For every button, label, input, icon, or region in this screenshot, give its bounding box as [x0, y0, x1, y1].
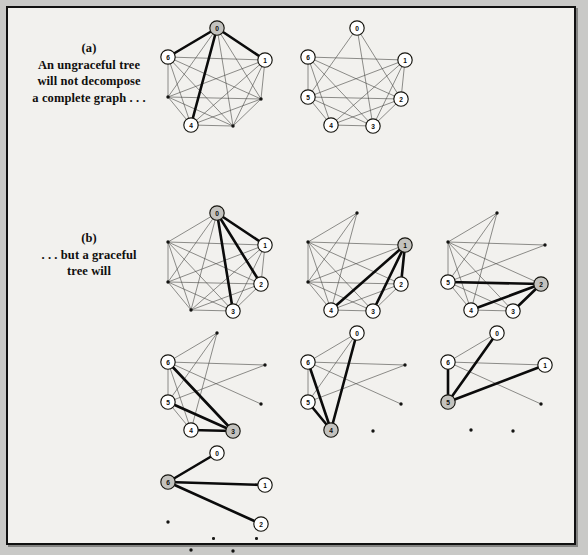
graph-node-dot: [469, 428, 472, 431]
graph-edge: [168, 365, 265, 402]
graph-edge: [168, 242, 191, 310]
caption-b-label: (b): [14, 230, 164, 247]
graph-node-label: 5: [446, 279, 450, 286]
graph-node-label: 1: [263, 482, 267, 489]
graph-node-label: 1: [263, 242, 267, 249]
graph-node-dot: [399, 402, 402, 405]
graph-node-label: 6: [306, 359, 310, 366]
graph-edge: [308, 242, 331, 310]
k7-graceful-step-3: 3456: [160, 325, 285, 450]
graph-node-dot: [543, 243, 546, 246]
graph-edge-highlighted: [168, 482, 261, 524]
graph-edge: [448, 213, 497, 282]
graph-node-label: 0: [355, 25, 359, 32]
k7-graceful-step-1: 1234: [300, 205, 425, 330]
graph-node-label: 5: [446, 399, 450, 406]
graph-node-label: 4: [189, 122, 193, 129]
graph-edge: [191, 60, 265, 125]
graph-node-dot: [403, 363, 406, 366]
graph-node-dot: [231, 124, 234, 127]
graph-node-label: 6: [166, 359, 170, 366]
graph-edge: [168, 57, 191, 125]
caption-a-line-2: will not decompose: [14, 73, 164, 90]
graph-node-label: 1: [403, 242, 407, 249]
graph-node-label: 3: [231, 428, 235, 435]
graph-edge: [191, 213, 217, 310]
graph-node-label: 4: [329, 122, 333, 129]
graph-edge: [233, 99, 261, 126]
graph-edge: [448, 242, 513, 311]
graph-edge: [168, 57, 265, 60]
graph-node-dot: [166, 240, 169, 243]
graph-node-label: 1: [403, 57, 407, 64]
graph-edge: [448, 245, 545, 282]
graph-edge: [308, 362, 405, 365]
graph-node-label: 5: [306, 94, 310, 101]
graph-edge: [168, 28, 217, 97]
graph-edge-highlighted: [331, 245, 405, 310]
graph-node-dot: [539, 402, 542, 405]
graph-edge: [168, 333, 217, 402]
stray-dot-bottom-right: [255, 537, 258, 540]
graph-edge: [233, 60, 265, 126]
graph-edge: [448, 333, 497, 362]
graph-node-label: 2: [259, 521, 263, 528]
graph-node-dot: [511, 429, 514, 432]
k7-graceful-step-4: 0456: [300, 325, 425, 450]
graph-node-label: 1: [543, 362, 547, 369]
graph-edge: [168, 57, 261, 99]
graph-node-dot: [259, 97, 262, 100]
graph-node-label: 2: [399, 281, 403, 288]
graph-node-dot: [306, 240, 309, 243]
graph-edge: [331, 60, 405, 125]
graph-node-label: 3: [511, 308, 515, 315]
graph-edge: [308, 242, 405, 245]
caption-b: (b) . . . but a graceful tree will: [14, 230, 164, 280]
graph-edge: [308, 362, 401, 404]
graph-node-dot: [446, 240, 449, 243]
graph-edge: [448, 362, 545, 365]
graph-node-label: 2: [259, 281, 263, 288]
graph-edge: [448, 242, 545, 245]
graph-node-label: 4: [469, 307, 473, 314]
graph-node-dot: [166, 280, 169, 283]
graph-edge: [308, 213, 357, 282]
caption-b-line-2: tree will: [14, 263, 164, 280]
graph-edge: [168, 282, 191, 310]
graph-edge-highlighted: [168, 482, 265, 485]
graph-edge: [168, 213, 217, 242]
graph-edge: [448, 213, 497, 242]
graph-edge: [308, 57, 401, 99]
graph-node-label: 3: [371, 123, 375, 130]
graph-edge-highlighted: [217, 213, 265, 245]
graph-edge-highlighted: [217, 28, 265, 60]
graph-node-dot: [263, 363, 266, 366]
graph-node-dot: [355, 211, 358, 214]
graph-edge: [168, 362, 261, 404]
graph-edge-highlighted: [168, 453, 217, 482]
graph-edge: [331, 213, 357, 310]
graph-node-label: 4: [329, 307, 333, 314]
graph-node-label: 0: [495, 330, 499, 337]
graph-edge: [308, 60, 405, 97]
graph-edge: [168, 60, 265, 97]
figure-frame: (a) An ungraceful tree will not decompos…: [6, 6, 576, 545]
k7-remaining-after-ungraceful: 0123456: [300, 20, 425, 145]
graph-node-label: 0: [215, 450, 219, 457]
caption-b-line-1: . . . but a graceful: [14, 247, 164, 264]
graph-node-label: 6: [166, 479, 170, 486]
graph-edge: [168, 333, 217, 362]
graph-node-label: 2: [399, 96, 403, 103]
k7-graceful-step-2: 2345: [440, 205, 565, 330]
caption-a-line-1: An ungraceful tree: [14, 57, 164, 74]
graph-edge: [308, 365, 405, 402]
graph-node-dot: [306, 280, 309, 283]
graph-node-label: 0: [215, 25, 219, 32]
graph-node-dot: [231, 549, 234, 552]
graph-edge: [308, 333, 357, 402]
graph-node-label: 6: [446, 359, 450, 366]
graph-edge: [308, 242, 401, 284]
graph-node-dot: [495, 211, 498, 214]
graph-edge: [168, 213, 217, 282]
k7-graceful-step-6: 0126: [160, 445, 285, 555]
